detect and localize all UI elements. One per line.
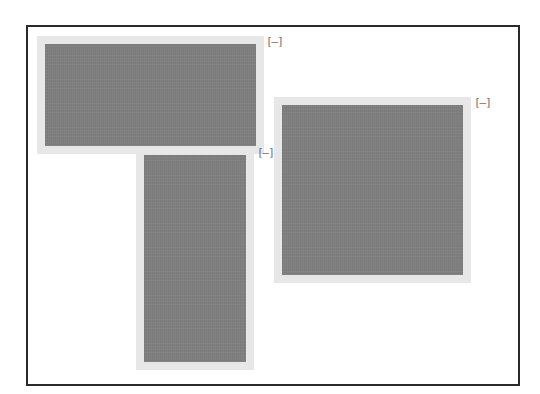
panel-top-left-body	[45, 44, 256, 146]
panel-tall[interactable]	[136, 147, 254, 370]
panel-top-left[interactable]	[37, 36, 264, 154]
panel-right-body	[282, 105, 463, 275]
collapse-button-panel-top-left[interactable]: [–]	[266, 36, 283, 48]
collapse-button-panel-tall[interactable]: [–]	[257, 147, 274, 159]
panel-right[interactable]	[274, 97, 471, 283]
panel-tall-body	[144, 155, 246, 362]
collapse-button-panel-right[interactable]: [–]	[474, 97, 491, 109]
